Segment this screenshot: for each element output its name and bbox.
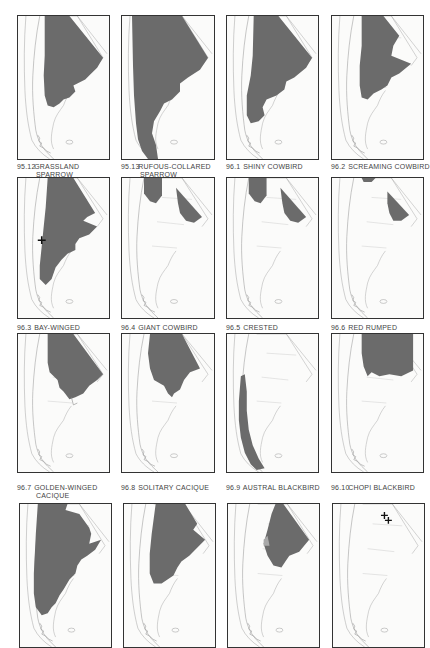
caption: 95.12 GRASSLANDSPARROW bbox=[17, 163, 79, 178]
map-number: 96.6 bbox=[331, 324, 346, 332]
map-row4-2 bbox=[123, 503, 216, 648]
species-name: SHINY COWBIRD bbox=[243, 163, 303, 170]
map-number: 96.10 bbox=[331, 484, 346, 492]
species-name: RED RUMPED bbox=[348, 324, 397, 331]
map-number: 95.12 bbox=[17, 163, 32, 171]
map-number: 96.8 bbox=[121, 484, 136, 492]
map-row4-3 bbox=[227, 503, 320, 648]
map-number: 95.13 bbox=[121, 163, 136, 171]
map-number: 96.3 bbox=[17, 324, 32, 332]
map-solitary-cacique bbox=[121, 333, 215, 473]
map-red-rumped-cacique bbox=[331, 177, 424, 319]
species-name-cont: CACIQUE bbox=[17, 492, 97, 500]
map-screaming-cowbird bbox=[331, 15, 424, 160]
caption: 96.10 CHOPI BLACKBIRD bbox=[331, 484, 415, 492]
caption: 96.7 GOLDEN-WINGEDCACIQUE bbox=[17, 484, 97, 499]
map-number: 96.7 bbox=[17, 484, 32, 492]
species-name: AUSTRAL BLACKBIRD bbox=[243, 484, 320, 491]
record-cross-icon bbox=[385, 517, 392, 524]
map-golden-winged-cacique bbox=[17, 333, 110, 473]
record-cross-icon bbox=[381, 512, 388, 519]
species-name: CHOPI BLACKBIRD bbox=[348, 484, 415, 491]
map-number: 96.9 bbox=[226, 484, 241, 492]
species-name: CRESTED bbox=[243, 324, 278, 331]
map-number: 96.2 bbox=[331, 163, 346, 171]
caption: 96.2 SCREAMING COWBIRD bbox=[331, 163, 430, 171]
map-rufous-collared-sparrow bbox=[121, 15, 215, 160]
caption: 96.4 GIANT COWBIRD bbox=[121, 324, 198, 332]
caption: 95.13 RUFOUS-COLLAREDSPARROW bbox=[121, 163, 211, 178]
map-row4-4 bbox=[332, 503, 425, 648]
species-name: GOLDEN-WINGED bbox=[34, 484, 97, 491]
map-chopi-blackbird bbox=[331, 333, 424, 473]
map-row4-1 bbox=[19, 503, 112, 648]
species-name: GRASSLAND bbox=[34, 163, 79, 170]
species-name: BAY-WINGED bbox=[34, 324, 80, 331]
species-name: SCREAMING COWBIRD bbox=[348, 163, 430, 170]
map-shiny-cowbird bbox=[226, 15, 319, 160]
map-grassland-sparrow bbox=[17, 15, 110, 160]
species-name: SOLITARY CACIQUE bbox=[138, 484, 209, 491]
species-name: GIANT COWBIRD bbox=[138, 324, 198, 331]
map-bay-winged-cowbird bbox=[17, 177, 110, 319]
caption: 96.8 SOLITARY CACIQUE bbox=[121, 484, 209, 492]
caption: 96.9 AUSTRAL BLACKBIRD bbox=[226, 484, 320, 492]
species-name: RUFOUS-COLLARED bbox=[138, 163, 211, 170]
map-number: 96.4 bbox=[121, 324, 136, 332]
caption: 96.1 SHINY COWBIRD bbox=[226, 163, 303, 171]
map-crested-oropendola bbox=[226, 177, 319, 319]
map-austral-blackbird bbox=[226, 333, 319, 473]
map-number: 96.1 bbox=[226, 163, 241, 171]
map-giant-cowbird bbox=[121, 177, 215, 319]
map-number: 96.5 bbox=[226, 324, 241, 332]
